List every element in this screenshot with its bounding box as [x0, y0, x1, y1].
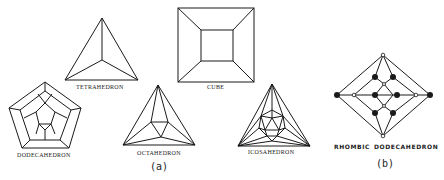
tetrahedron-graph [65, 18, 138, 80]
rhombic-dodecahedron-graph [334, 53, 433, 138]
label-tetrahedron: TETRAHEDRON [76, 84, 124, 90]
panel-label-b: (b) [376, 158, 394, 169]
label-cube: CUBE [207, 84, 224, 90]
octahedron-graph [123, 85, 195, 145]
label-icosahedron: ICOSAHEDRON [248, 149, 294, 155]
label-dodecahedron: DODECAHEDRON [17, 152, 71, 158]
label-octahedron: OCTAHEDRON [137, 150, 181, 156]
icosahedron-graph [238, 84, 310, 146]
dodecahedron-graph [9, 82, 81, 148]
label-rhombic: RHOMBIC [334, 143, 370, 150]
cube-graph [178, 8, 254, 82]
label-rhombic-dodecahedron: DODECAHEDRON [374, 143, 438, 150]
panel-label-a: (a) [150, 161, 168, 172]
